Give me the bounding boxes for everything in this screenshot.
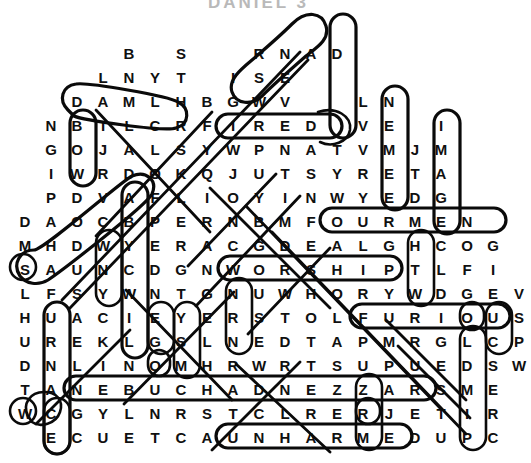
- grid-letter: T: [168, 66, 194, 90]
- grid-letter: P: [246, 138, 272, 162]
- grid-letter: S: [64, 282, 90, 306]
- grid-letter: U: [246, 162, 272, 186]
- grid-letter: U: [90, 426, 116, 450]
- grid-letter: O: [246, 258, 272, 282]
- grid-letter: R: [90, 162, 116, 186]
- grid-letter: I: [350, 258, 376, 282]
- grid-letter: A: [376, 378, 402, 402]
- grid-letter: S: [246, 66, 272, 90]
- grid-letter: M: [168, 354, 194, 378]
- grid-letter: F: [298, 210, 324, 234]
- grid-letter: U: [12, 330, 38, 354]
- grid-letter: S: [194, 402, 220, 426]
- grid-letter: J: [220, 162, 246, 186]
- grid-letter: G: [428, 186, 454, 210]
- grid-letter: T: [402, 258, 428, 282]
- grid-letter: P: [376, 354, 402, 378]
- grid-letter: N: [38, 114, 64, 138]
- grid-letter: O: [324, 282, 350, 306]
- grid-letter: N: [90, 258, 116, 282]
- grid-letter: B: [64, 114, 90, 138]
- grid-letter: E: [38, 426, 64, 450]
- grid-letter: H: [12, 306, 38, 330]
- grid-letter: U: [376, 306, 402, 330]
- grid-letter: D: [12, 354, 38, 378]
- grid-letter: U: [220, 426, 246, 450]
- grid-letter: W: [116, 282, 142, 306]
- grid-letter: E: [402, 402, 428, 426]
- grid-letter: S: [168, 42, 194, 66]
- grid-letter: E: [480, 282, 506, 306]
- grid-letter: Z: [350, 378, 376, 402]
- grid-letter: O: [142, 162, 168, 186]
- grid-letter: C: [90, 306, 116, 330]
- grid-letter: L: [324, 306, 350, 330]
- grid-letter: C: [64, 426, 90, 450]
- grid-letter: R: [350, 402, 376, 426]
- grid-letter: W: [246, 90, 272, 114]
- grid-letter: V: [90, 186, 116, 210]
- grid-letter: J: [90, 138, 116, 162]
- grid-letter: Y: [168, 306, 194, 330]
- grid-letter: H: [298, 282, 324, 306]
- grid-letter: H: [402, 234, 428, 258]
- grid-letter: F: [38, 282, 64, 306]
- grid-letter: W: [246, 354, 272, 378]
- grid-letter: L: [142, 90, 168, 114]
- grid-letter: A: [324, 330, 350, 354]
- grid-letter: L: [12, 282, 38, 306]
- grid-letter: S: [480, 354, 506, 378]
- grid-letter: L: [116, 402, 142, 426]
- grid-letter: H: [38, 234, 64, 258]
- grid-letter: N: [298, 186, 324, 210]
- grid-letter: G: [246, 234, 272, 258]
- grid-letter: N: [116, 66, 142, 90]
- grid-letter: P: [376, 258, 402, 282]
- grid-letter: T: [272, 162, 298, 186]
- grid-letter: A: [38, 210, 64, 234]
- grid-letter: C: [168, 378, 194, 402]
- grid-letter: N: [194, 258, 220, 282]
- grid-letter: U: [350, 210, 376, 234]
- grid-letter: L: [90, 66, 116, 90]
- grid-letter: T: [220, 402, 246, 426]
- grid-letter: N: [272, 42, 298, 66]
- grid-letter: A: [64, 306, 90, 330]
- grid-letter: W: [90, 234, 116, 258]
- grid-letter: B: [116, 378, 142, 402]
- grid-letter: N: [220, 210, 246, 234]
- grid-letter: Y: [90, 402, 116, 426]
- grid-letter: A: [90, 90, 116, 114]
- grid-letter: D: [324, 42, 350, 66]
- grid-letter: N: [220, 282, 246, 306]
- grid-letter: R: [350, 162, 376, 186]
- grid-letter: E: [90, 378, 116, 402]
- grid-letter: D: [116, 162, 142, 186]
- grid-letter: V: [506, 282, 531, 306]
- grid-letter: C: [90, 210, 116, 234]
- grid-letter: M: [454, 378, 480, 402]
- grid-letter: D: [64, 90, 90, 114]
- grid-letter: M: [376, 330, 402, 354]
- grid-letter: I: [90, 354, 116, 378]
- grid-letter: M: [428, 138, 454, 162]
- grid-letter: P: [38, 186, 64, 210]
- grid-letter: L: [350, 234, 376, 258]
- grid-letter: E: [246, 330, 272, 354]
- grid-letter: L: [116, 114, 142, 138]
- grid-letter: A: [116, 186, 142, 210]
- grid-letter: D: [142, 258, 168, 282]
- grid-letter: G: [64, 402, 90, 426]
- grid-letter: D: [402, 186, 428, 210]
- grid-letter: G: [142, 330, 168, 354]
- grid-letter: A: [38, 258, 64, 282]
- grid-letter: G: [376, 234, 402, 258]
- grid-letter: N: [116, 354, 142, 378]
- grid-letter: A: [298, 426, 324, 450]
- grid-letter: Y: [376, 282, 402, 306]
- grid-letter: A: [116, 138, 142, 162]
- grid-letter: W: [402, 282, 428, 306]
- grid-letter: I: [272, 186, 298, 210]
- grid-letter: C: [220, 234, 246, 258]
- grid-letter: D: [246, 378, 272, 402]
